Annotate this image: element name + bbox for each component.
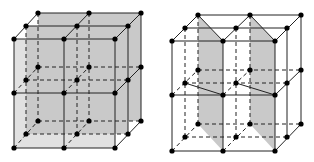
- left-lattice: [11, 10, 143, 150]
- right-lattice: [169, 12, 303, 153]
- lattice-diagram: [0, 0, 314, 162]
